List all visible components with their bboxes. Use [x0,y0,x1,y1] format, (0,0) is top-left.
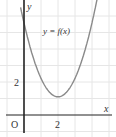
x-axis-label: x [103,103,109,114]
plot-area: x y O y = f(x) 22 [0,0,116,137]
origin-label: O [11,119,18,130]
x-tick-label: 2 [55,119,60,130]
function-graph: x y O y = f(x) 22 [0,0,116,137]
grid-lines [0,0,116,137]
curve-label: y = f(x) [42,26,70,36]
y-axis-label: y [26,1,32,12]
y-tick-label: 2 [14,77,19,88]
tick-labels: 22 [14,77,60,130]
